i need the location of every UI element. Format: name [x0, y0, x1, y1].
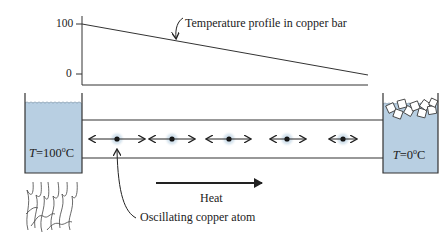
temperature-profile-line [82, 24, 368, 75]
temperature-var: T [393, 148, 400, 162]
atom-pointer-arrow [117, 150, 136, 218]
y-tick-label-0: 0 [66, 67, 72, 79]
heat-label: Heat [200, 191, 223, 206]
flame-icon [26, 182, 77, 232]
hot-reservoir-temperature: T=100oC [29, 145, 74, 161]
temperature-unit: C [417, 148, 425, 162]
cold-reservoir-temperature: T=0oC [380, 147, 438, 163]
y-tick-label-100: 100 [56, 17, 73, 29]
copper-atom [150, 131, 194, 147]
copper-atom [207, 131, 250, 147]
diagram-canvas [0, 0, 447, 236]
copper-atom [271, 131, 305, 147]
temperature-var: T [29, 146, 36, 160]
copper-atom [90, 131, 144, 147]
temperature-value: =0 [400, 148, 413, 162]
water-surface [25, 102, 81, 103]
temperature-value: =100 [36, 146, 62, 160]
copper-atoms [90, 131, 356, 147]
copper-atom [330, 131, 356, 147]
temperature-unit: C [66, 146, 74, 160]
atom-label: Oscillating copper atom [140, 210, 255, 225]
profile-pointer-arrow [176, 18, 183, 38]
temperature-profile-label: Temperature profile in copper bar [185, 16, 347, 31]
